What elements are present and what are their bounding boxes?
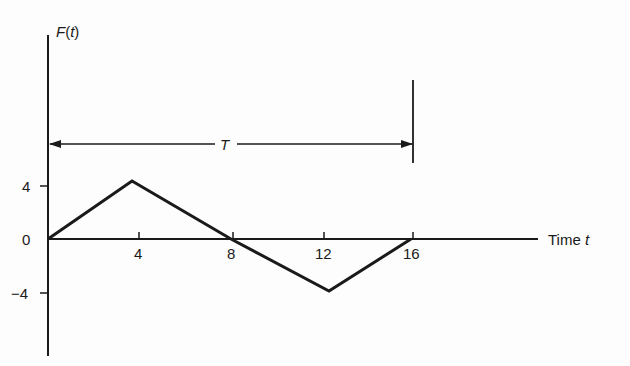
period-annotation: T [50, 80, 413, 163]
x-tick-label-4: 4 [134, 245, 142, 262]
y-axis: F(t) 4 0 −4 [11, 23, 79, 356]
y-tick-label-4: 4 [22, 178, 30, 195]
x-axis: 4 8 12 16 Time t [48, 231, 590, 262]
triangular-waveform [48, 181, 411, 291]
x-tick-label-16: 16 [403, 245, 420, 262]
x-axis-label: Time t [548, 231, 590, 248]
triangular-waveform-diagram: F(t) 4 0 −4 4 8 12 16 Time t T [0, 0, 630, 366]
y-axis-label: F(t) [56, 23, 79, 40]
x-tick-label-8: 8 [227, 245, 235, 262]
y-tick-label-0: 0 [22, 231, 30, 248]
y-tick-label-neg4: −4 [11, 285, 28, 302]
x-tick-label-12: 12 [315, 245, 332, 262]
period-label: T [220, 136, 231, 153]
